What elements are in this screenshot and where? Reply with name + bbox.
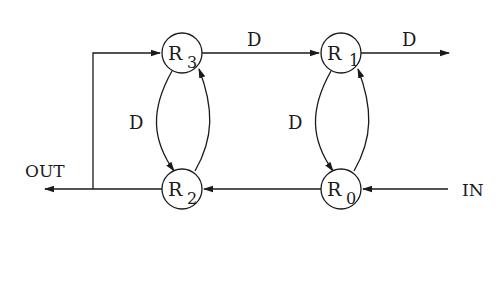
node-r2: R 2 xyxy=(162,169,202,209)
diagram-canvas: R 3 R 1 R 2 R 0 D D D D OUT IN xyxy=(0,0,504,306)
node-r0-label: R xyxy=(327,178,342,200)
edge-r1-to-r0 xyxy=(315,71,333,171)
feedback-line xyxy=(93,53,160,189)
node-r3-subscript: 3 xyxy=(187,53,197,72)
register-flow-diagram: R 3 R 1 R 2 R 0 D D D D OUT IN xyxy=(0,0,504,306)
node-r0-subscript: 0 xyxy=(346,189,356,208)
label-r3-to-r1-delay: D xyxy=(247,29,261,50)
node-r2-subscript: 2 xyxy=(187,189,197,208)
node-r1-subscript: 1 xyxy=(349,51,359,70)
node-r1: R 1 xyxy=(321,33,361,73)
edge-r2-to-r3 xyxy=(195,69,210,171)
label-r3-r2-loop-delay: D xyxy=(129,112,143,133)
node-r3: R 3 xyxy=(162,33,202,73)
label-r1-output-delay: D xyxy=(402,29,416,50)
edge-r3-to-r2 xyxy=(156,71,174,171)
node-r1-label: R xyxy=(327,42,342,64)
label-out: OUT xyxy=(25,161,65,181)
label-in: IN xyxy=(462,180,484,200)
edge-r0-to-r1 xyxy=(354,69,369,171)
node-r3-label: R xyxy=(168,42,183,64)
node-r0: R 0 xyxy=(321,169,361,209)
node-r2-label: R xyxy=(168,178,183,200)
label-r1-r0-loop-delay: D xyxy=(288,112,302,133)
